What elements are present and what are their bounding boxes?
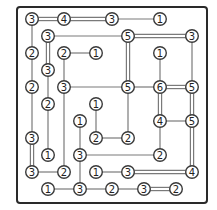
island[interactable]: 3 <box>26 13 39 26</box>
island-number: 4 <box>157 116 163 127</box>
island-number: 3 <box>77 150 83 161</box>
island[interactable]: 2 <box>90 132 103 145</box>
island[interactable]: 4 <box>58 13 71 26</box>
island-number: 1 <box>93 99 99 110</box>
island[interactable]: 3 <box>74 183 87 196</box>
island[interactable]: 1 <box>42 183 55 196</box>
island-number: 1 <box>45 150 51 161</box>
island-number: 2 <box>45 99 51 110</box>
island[interactable]: 5 <box>122 81 135 94</box>
island-number: 6 <box>157 82 163 93</box>
island-number: 2 <box>125 133 131 144</box>
island[interactable]: 1 <box>90 98 103 111</box>
island-number: 3 <box>45 65 51 76</box>
island[interactable]: 5 <box>186 115 199 128</box>
island-number: 1 <box>77 116 83 127</box>
island-number: 2 <box>61 48 67 59</box>
island[interactable]: 1 <box>74 115 87 128</box>
island-number: 2 <box>173 184 179 195</box>
island[interactable]: 1 <box>90 166 103 179</box>
island-number: 2 <box>157 150 163 161</box>
island-number: 3 <box>77 184 83 195</box>
island-number: 4 <box>189 167 195 178</box>
island-number: 3 <box>125 167 131 178</box>
puzzle-board[interactable]: 34313532211323565211453221323213413232 <box>0 0 217 210</box>
island[interactable]: 3 <box>106 13 119 26</box>
island[interactable]: 6 <box>154 81 167 94</box>
island[interactable]: 1 <box>42 149 55 162</box>
island-number: 5 <box>189 82 195 93</box>
island[interactable]: 2 <box>122 132 135 145</box>
island[interactable]: 2 <box>42 98 55 111</box>
island-number: 5 <box>125 82 131 93</box>
island-number: 5 <box>125 31 131 42</box>
island[interactable]: 3 <box>138 183 151 196</box>
island[interactable]: 2 <box>58 166 71 179</box>
island[interactable]: 3 <box>26 166 39 179</box>
island[interactable]: 4 <box>154 115 167 128</box>
island-number: 2 <box>29 82 35 93</box>
island-number: 3 <box>141 184 147 195</box>
island-number: 3 <box>61 82 67 93</box>
island[interactable]: 2 <box>170 183 183 196</box>
island-number: 3 <box>29 14 35 25</box>
island[interactable]: 5 <box>186 81 199 94</box>
island[interactable]: 2 <box>106 183 119 196</box>
island-number: 2 <box>93 133 99 144</box>
island[interactable]: 3 <box>186 30 199 43</box>
island-number: 1 <box>93 48 99 59</box>
island-number: 1 <box>93 167 99 178</box>
island-number: 1 <box>157 48 163 59</box>
island-number: 3 <box>109 14 115 25</box>
island[interactable]: 3 <box>122 166 135 179</box>
island[interactable]: 1 <box>90 47 103 60</box>
island-number: 5 <box>189 116 195 127</box>
island[interactable]: 2 <box>26 81 39 94</box>
island[interactable]: 3 <box>42 30 55 43</box>
island[interactable]: 1 <box>154 47 167 60</box>
island-number: 1 <box>45 184 51 195</box>
island-number: 3 <box>45 31 51 42</box>
island[interactable]: 4 <box>186 166 199 179</box>
island-number: 2 <box>109 184 115 195</box>
island[interactable]: 5 <box>122 30 135 43</box>
island[interactable]: 2 <box>26 47 39 60</box>
island-number: 2 <box>61 167 67 178</box>
island-number: 3 <box>29 167 35 178</box>
island-number: 3 <box>29 133 35 144</box>
island[interactable]: 1 <box>154 13 167 26</box>
island[interactable]: 2 <box>154 149 167 162</box>
island[interactable]: 3 <box>26 132 39 145</box>
island[interactable]: 3 <box>58 81 71 94</box>
island-number: 1 <box>157 14 163 25</box>
island-number: 3 <box>189 31 195 42</box>
island[interactable]: 3 <box>74 149 87 162</box>
island[interactable]: 2 <box>58 47 71 60</box>
island-number: 2 <box>29 48 35 59</box>
island[interactable]: 3 <box>42 64 55 77</box>
island-number: 4 <box>61 14 67 25</box>
